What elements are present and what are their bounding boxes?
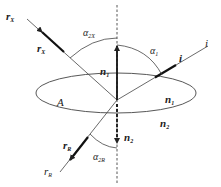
label-alpha-1: α1: [150, 45, 158, 57]
refracted-ray-line: [60, 100, 117, 172]
label-n2-medium: n2: [160, 117, 169, 130]
optics-diagram: rX rX α2X α1 i i n1 A n1 n2 n2 rR rR α2R: [0, 0, 221, 187]
label-i-vector: i: [179, 52, 183, 64]
incident-vector-i: [155, 65, 176, 78]
angle-arc-alpha-2r: [90, 134, 117, 148]
label-i-end: i: [205, 37, 208, 49]
label-alpha-2x: α2X: [83, 27, 95, 39]
reflected-vector-rx: [42, 32, 64, 52]
refracted-vector-rr: [70, 137, 88, 160]
angle-arc-alpha-2x: [70, 38, 117, 58]
angle-arc-alpha-1: [117, 45, 162, 75]
label-n2-vector: n2: [124, 131, 133, 144]
label-alpha-2r: α2R: [93, 151, 105, 163]
label-n1-medium: n1: [165, 93, 174, 106]
reflected-ray-line: [27, 19, 117, 100]
label-rx-vector: rX: [37, 42, 46, 55]
label-rx-end: rX: [6, 10, 15, 23]
label-rr-end: rR: [44, 165, 52, 178]
label-rr-vector: rR: [63, 139, 71, 152]
label-n1-vector: n1: [100, 65, 109, 78]
label-surface-a: A: [56, 96, 64, 108]
